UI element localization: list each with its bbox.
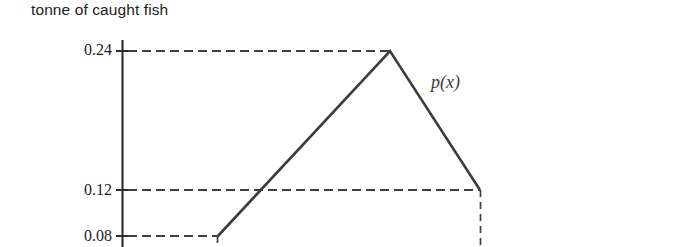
y-axis-tick-label-008: 0.08 xyxy=(36,227,112,245)
plot-area xyxy=(0,0,673,247)
y-axis-tick-label-024: 0.24 xyxy=(36,41,112,59)
y-axis-tick-label-012: 0.12 xyxy=(36,181,112,199)
curve-annotation-px: p(x) xyxy=(431,72,460,93)
chart-figure: tonne of caught fish 0.24 0.12 0.08 p(x) xyxy=(0,0,673,247)
